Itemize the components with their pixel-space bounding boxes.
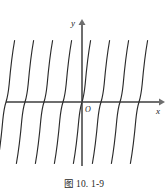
caption-prefix: 图 <box>64 179 74 189</box>
y-axis-arrowhead <box>79 19 86 25</box>
tangent-graph-svg: y x O <box>0 0 168 172</box>
caption-number: 10. 1-9 <box>76 179 104 189</box>
tangent-graph-plot: y x O <box>0 0 168 172</box>
figure-container: y x O 图10. 1-9 <box>0 0 168 196</box>
figure-caption: 图10. 1-9 <box>0 176 168 190</box>
origin-label: O <box>85 105 91 114</box>
x-axis-arrowhead <box>159 98 165 105</box>
x-axis-label: x <box>155 106 160 116</box>
y-axis-label: y <box>70 18 75 28</box>
